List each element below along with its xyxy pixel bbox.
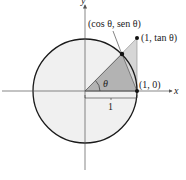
label-one-zero: (1, 0) — [139, 79, 161, 91]
label-tan: (1, tan θ) — [141, 32, 177, 44]
label-cos-sin: (cos θ, sen θ) — [88, 18, 141, 30]
x-axis-label: x — [173, 85, 179, 96]
angle-label: θ — [103, 78, 108, 89]
point-tan — [135, 36, 139, 40]
y-axis-label: y — [80, 0, 86, 6]
radius-label: 1 — [108, 101, 113, 112]
point-cos-sin — [120, 52, 124, 56]
unit-circle-diagram: y x (cos θ, sen θ) (1, tan θ) (1, 0) θ 1 — [0, 0, 186, 180]
